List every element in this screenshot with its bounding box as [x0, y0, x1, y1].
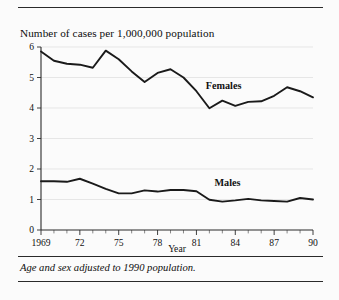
y-tick-label-2: 2: [29, 163, 34, 174]
x-tick-label-1981: 81: [192, 237, 202, 248]
x-tick-label-1978: 78: [153, 237, 163, 248]
y-tick-label-3: 3: [29, 133, 34, 144]
series-labels-group: FemalesMales: [206, 80, 242, 189]
x-tick-label-1990: 90: [308, 237, 318, 248]
y-tick-label-0: 0: [29, 224, 34, 235]
series-label-males: Males: [214, 177, 240, 188]
y-tick-label-4: 4: [29, 102, 34, 113]
series-paths-group: [41, 51, 313, 202]
gridlines-group: [41, 47, 313, 200]
y-tick-label-5: 5: [29, 72, 34, 83]
x-tick-label-1984: 84: [230, 237, 240, 248]
x-tick-label-1969: 1969: [31, 237, 50, 248]
x-tick-label-1975: 75: [114, 237, 124, 248]
x-tick-label-1987: 87: [269, 237, 279, 248]
line-chart-svg: 0123456 196972757881848790 FemalesMales …: [0, 0, 339, 300]
figure-container: Number of cases per 1,000,000 population…: [0, 0, 339, 300]
plot-area: 0123456 196972757881848790 FemalesMales …: [0, 0, 339, 300]
bottom-rule: [18, 281, 323, 282]
x-axis-title: Year: [168, 243, 186, 254]
figure-footnote: Age and sex adjusted to 1990 population.: [20, 262, 196, 273]
series-line-females: [41, 51, 313, 109]
y-axis-ticks-group: 0123456: [29, 41, 41, 235]
series-label-females: Females: [206, 80, 242, 91]
y-tick-label-1: 1: [29, 194, 34, 205]
series-line-males: [41, 179, 313, 202]
y-tick-label-6: 6: [29, 41, 34, 52]
mid-rule: [18, 256, 323, 257]
x-tick-label-1972: 72: [75, 237, 85, 248]
